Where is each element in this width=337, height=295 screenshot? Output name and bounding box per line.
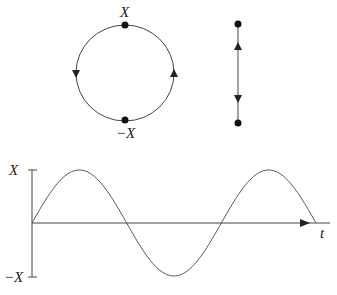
wave-plot: X −X t <box>4 162 330 285</box>
segment-bottom-dot <box>235 120 242 127</box>
circle-arrow-left-icon <box>72 70 80 78</box>
segment-top-dot <box>235 21 242 28</box>
circle-arrow-right-icon <box>170 69 178 77</box>
projection-segment <box>234 21 242 127</box>
circle-top-label: X <box>119 4 130 20</box>
segment-arrow-down-icon <box>234 95 242 103</box>
phase-circle: X −X <box>72 4 178 141</box>
circle-bottom-label: −X <box>116 125 136 141</box>
segment-arrow-up-icon <box>234 42 242 50</box>
bottom-dot <box>122 117 129 124</box>
y-min-label: −X <box>4 269 24 285</box>
top-dot <box>122 22 129 29</box>
x-axis-arrow-icon <box>300 219 310 227</box>
x-axis-label: t <box>320 225 325 241</box>
y-max-label: X <box>8 162 19 178</box>
oscillation-diagram: X −X X −X t <box>0 0 337 295</box>
